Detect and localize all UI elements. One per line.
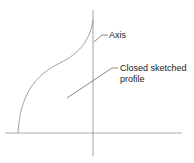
profile-label-line1: Closed sketched bbox=[120, 63, 187, 73]
axis-leader bbox=[94, 35, 108, 42]
profile-leader bbox=[67, 68, 118, 98]
sketch-diagram bbox=[0, 0, 194, 163]
profile-curve bbox=[18, 20, 93, 133]
profile-label-line2: profile bbox=[120, 74, 145, 84]
axis-label: Axis bbox=[109, 30, 126, 40]
